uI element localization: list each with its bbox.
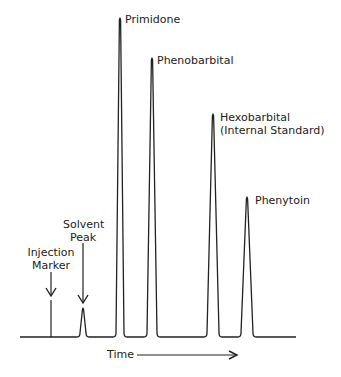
solvent-arrow-icon <box>78 243 88 303</box>
injection-marker-label-line2: Marker <box>24 259 78 272</box>
peak-label-phenytoin: Phenytoin <box>255 194 310 207</box>
peak-label-primidone: Primidone <box>125 13 180 26</box>
injection-arrow-icon <box>46 272 56 296</box>
peak-label-phenobarbital: Phenobarbital <box>157 54 233 67</box>
solvent-peak-label-line2: Peak <box>63 231 103 244</box>
solvent-peak-label-line1: Solvent <box>63 218 103 231</box>
x-axis-label-time: Time <box>107 348 134 361</box>
time-arrow-icon <box>137 351 237 359</box>
injection-marker-label-line1: Injection <box>24 246 78 259</box>
peak-label-internal-standard: (Internal Standard) <box>220 124 325 137</box>
peak-label-hexobarbital: Hexobarbital <box>220 111 290 124</box>
